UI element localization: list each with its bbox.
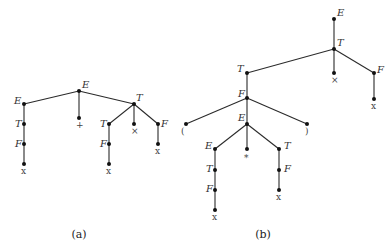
node-dot [22, 102, 26, 106]
tree-node-f1: F [372, 64, 385, 75]
node-dot [107, 122, 111, 126]
node-dot [332, 47, 336, 51]
tree-node-t2: T [132, 92, 144, 106]
node-label: * [244, 153, 249, 163]
node-dot [245, 71, 249, 75]
node-label: ) [305, 126, 309, 136]
tree-edge [109, 104, 134, 124]
tree-b-edges [186, 19, 374, 210]
node-label: F [205, 183, 214, 194]
tree-node-root: E [332, 7, 345, 21]
node-label: x [276, 192, 281, 202]
tree-node-times: × [331, 71, 339, 85]
node-dot [77, 89, 81, 93]
tree-node-plus: + [76, 116, 84, 130]
tree-node-times: × [131, 122, 139, 136]
tree-edge [79, 91, 134, 104]
tree-node-x1: x [371, 97, 376, 111]
node-label: x [155, 146, 160, 156]
node-label: E [237, 112, 246, 123]
node-dot [332, 17, 336, 21]
tree-node-lparen: ( [181, 122, 188, 136]
tree-node-star: * [244, 147, 249, 163]
node-label: T [237, 63, 245, 74]
node-label: T [284, 140, 292, 151]
node-label: × [331, 75, 339, 85]
node-dot [213, 168, 217, 172]
node-label: T [337, 37, 345, 48]
tree-edge [334, 49, 374, 73]
tree-edge [215, 124, 247, 149]
tree-node-e1: E [13, 95, 26, 106]
node-label: x [371, 101, 376, 111]
tree-edge [247, 49, 334, 73]
tree-edge [247, 124, 279, 149]
node-dot [22, 142, 26, 146]
node-label: F [14, 138, 23, 149]
node-label: T [15, 118, 23, 129]
parse-tree-figure: EETFx+TTFx×Fx ET×FxTF(E)E*TTFxFx (a) (b) [0, 0, 392, 249]
tree-node-rparen: ) [305, 122, 309, 136]
node-dot [372, 71, 376, 75]
tree-edge [247, 98, 307, 124]
caption-a: (a) [71, 228, 86, 241]
node-label: E [204, 140, 213, 151]
node-dot [245, 96, 249, 100]
node-dot [245, 122, 249, 126]
node-label: F [99, 138, 108, 149]
node-label: T [206, 163, 214, 174]
node-label: T [100, 118, 108, 129]
tree-node-e3: E [204, 140, 217, 151]
node-dot [245, 147, 249, 151]
tree-node-x4: x [155, 142, 160, 156]
node-label: E [81, 79, 90, 90]
node-dot [22, 122, 26, 126]
node-label: F [160, 118, 169, 129]
node-dot [277, 147, 281, 151]
node-label: E [336, 7, 345, 18]
parse-tree-a: EETFx+TTFx×Fx [13, 79, 169, 176]
node-dot [107, 142, 111, 146]
node-label: ( [181, 126, 185, 136]
tree-node-x4: x [212, 208, 217, 222]
tree-node-x1: x [21, 162, 26, 176]
node-dot [213, 188, 217, 192]
node-label: F [376, 64, 385, 75]
node-dot [213, 147, 217, 151]
node-dot [277, 168, 281, 172]
node-label: E [13, 95, 22, 106]
tree-node-t3: T [277, 140, 292, 151]
tree-node-t2: T [237, 63, 249, 75]
node-dot [184, 122, 188, 126]
tree-b-nodes: ET×FxTF(E)E*TTFxFx [181, 7, 385, 222]
tree-node-x5: x [276, 188, 281, 202]
tree-edge [134, 104, 158, 124]
node-label: F [237, 88, 246, 99]
node-label: T [136, 92, 144, 103]
node-dot [156, 122, 160, 126]
node-label: x [21, 166, 26, 176]
tree-edge [24, 91, 79, 104]
node-label: F [283, 163, 292, 174]
node-label: x [106, 166, 111, 176]
node-label: × [131, 126, 139, 136]
node-label: + [76, 120, 84, 130]
node-label: x [212, 212, 217, 222]
tree-node-x3: x [106, 162, 111, 176]
parse-tree-b: ET×FxTF(E)E*TTFxFx [181, 7, 385, 222]
caption-b: (b) [255, 228, 271, 241]
tree-node-root: E [77, 79, 90, 93]
